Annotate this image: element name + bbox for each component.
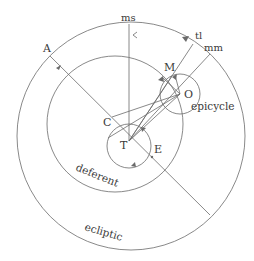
label-A: A — [42, 42, 52, 55]
label-mm: mm — [204, 42, 223, 53]
line-O-to-equant-left — [108, 94, 180, 138]
arrow-ms-chevron-icon — [133, 32, 137, 38]
arrow-tl-icon — [182, 36, 189, 42]
label-tl: tl — [195, 30, 202, 41]
label-ms: ms — [121, 12, 136, 23]
label-M: M — [164, 61, 175, 74]
ptolemaic-diagram: A ms tl mm M O C T E epicycle deferent e… — [0, 0, 254, 261]
line-M-to-T — [129, 76, 172, 141]
label-T: T — [120, 139, 128, 152]
line-O-to-T — [129, 94, 180, 141]
diagram-canvas: A ms tl mm M O C T E epicycle deferent e… — [0, 0, 254, 261]
arrow-equant-bottom-icon — [131, 162, 136, 167]
point-E-dot — [151, 156, 153, 158]
label-deferent: deferent — [74, 161, 121, 189]
line-O-to-C — [112, 94, 180, 117]
label-E: E — [154, 143, 162, 156]
arrow-epicycle-left-icon — [158, 76, 164, 82]
label-epicycle: epicycle — [191, 100, 235, 112]
arrow-A-icon — [56, 65, 61, 70]
label-ecliptic: ecliptic — [83, 220, 124, 242]
label-C: C — [103, 116, 111, 129]
